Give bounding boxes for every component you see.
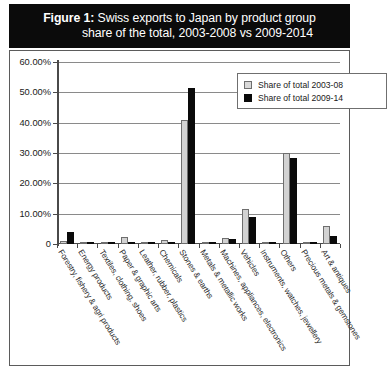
bar-group <box>178 62 198 244</box>
bar <box>323 226 330 244</box>
x-axis-category-label: Others <box>279 248 299 273</box>
bar-group <box>138 62 158 244</box>
x-axis-tick-mark <box>178 244 179 248</box>
chart-panel: 010.00%20.00%30.00%40.00%50.00%60.00% Sh… <box>9 50 350 366</box>
y-axis-tick-label: 50.00% <box>19 87 51 97</box>
y-axis-tick-label: 30.00% <box>19 148 51 158</box>
figure-title-line-2: share of the total, 2003-2008 vs 2009-20… <box>46 26 313 41</box>
figure-number-label: Figure 1: <box>43 11 94 25</box>
bar <box>283 153 290 244</box>
legend-swatch-icon <box>244 81 252 89</box>
legend-label: Share of total 2003-08 <box>258 80 343 90</box>
legend-item: Share of total 2003-08 <box>244 78 381 91</box>
x-axis-tick-mark <box>320 244 321 248</box>
x-axis-tick-mark <box>239 244 240 248</box>
figure-title-line-1: Figure 1: Swiss exports to Japan by prod… <box>43 11 316 26</box>
y-axis-tick-label: 10.00% <box>19 209 51 219</box>
x-axis-tick-mark <box>340 244 341 248</box>
legend-swatch-icon <box>244 94 252 102</box>
y-axis-tick-label: 40.00% <box>19 118 51 128</box>
x-axis-tick-mark <box>199 244 200 248</box>
x-axis-tick-mark <box>138 244 139 248</box>
y-axis-tick-label: 20.00% <box>19 178 51 188</box>
bar-group <box>158 62 178 244</box>
bar-group <box>118 62 138 244</box>
x-axis-tick-mark <box>57 244 58 248</box>
bar-group <box>97 62 117 244</box>
plot-area: 010.00%20.00%30.00%40.00%50.00%60.00% Sh… <box>57 62 340 244</box>
bar <box>330 236 337 244</box>
x-axis-tick-mark <box>279 244 280 248</box>
y-axis-tick-label: 0 <box>46 239 51 249</box>
bar <box>121 237 128 244</box>
bar <box>249 217 256 244</box>
x-axis-tick-mark <box>259 244 260 248</box>
bar <box>188 88 195 244</box>
x-axis-tick-mark <box>77 244 78 248</box>
legend-item: Share of total 2009-14 <box>244 91 381 104</box>
bar-group <box>57 62 77 244</box>
x-axis-tick-mark <box>118 244 119 248</box>
bar <box>290 158 297 244</box>
x-axis-tick-mark <box>300 244 301 248</box>
figure-title-text-1: Swiss exports to Japan by product group <box>94 11 316 25</box>
bar <box>67 232 74 244</box>
y-axis-tick-label: 60.00% <box>19 57 51 67</box>
x-axis-tick-marks <box>57 244 340 248</box>
bar-group <box>199 62 219 244</box>
bar-group <box>219 62 239 244</box>
chart-legend: Share of total 2003-08 Share of total 20… <box>237 73 387 109</box>
x-axis-tick-mark <box>219 244 220 248</box>
x-axis-tick-mark <box>97 244 98 248</box>
bar <box>242 209 249 244</box>
legend-label: Share of total 2009-14 <box>258 93 343 103</box>
x-axis-tick-mark <box>158 244 159 248</box>
figure-title-bar: Figure 1: Swiss exports to Japan by prod… <box>9 4 350 48</box>
bar-group <box>77 62 97 244</box>
bar <box>181 120 188 244</box>
